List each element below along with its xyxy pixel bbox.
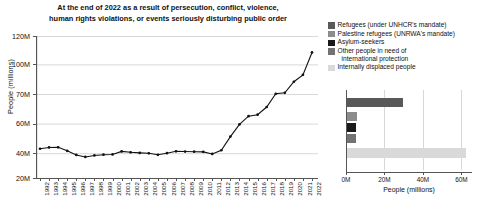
line-chart-x-tick-label: 2015 bbox=[251, 182, 258, 196]
line-chart-data-point bbox=[166, 152, 169, 155]
bar-chart-x-tick-label: 60M bbox=[448, 176, 474, 183]
bar-chart-x-tick-mark bbox=[461, 172, 462, 175]
bar-chart-x-tick-label: 0M bbox=[333, 176, 359, 183]
line-chart-y-tick-label: 40M bbox=[0, 149, 30, 158]
bar-chart-bar bbox=[346, 112, 357, 121]
bar-chart-bar bbox=[346, 98, 403, 107]
line-chart-data-point bbox=[120, 150, 123, 153]
line-chart-x-tick-label: 2005 bbox=[160, 182, 167, 196]
bar-chart-bar bbox=[346, 148, 466, 158]
line-chart-x-tick-label: 2007 bbox=[179, 182, 186, 196]
line-chart-x-tick-label: 2001 bbox=[124, 182, 131, 196]
line-chart-x-tick-label: 2017 bbox=[269, 182, 276, 196]
line-chart-data-point bbox=[256, 113, 259, 116]
line-chart-y-axis-label: People (millions) bbox=[6, 44, 15, 130]
line-chart-x-tick-label: 1994 bbox=[61, 182, 68, 196]
legend-swatch-icon bbox=[328, 48, 335, 55]
bar-chart-x-tick-mark bbox=[384, 172, 385, 175]
line-chart-data-point bbox=[247, 115, 250, 118]
line-chart-x-tick-label: 2011 bbox=[215, 182, 222, 195]
line-chart-data-point bbox=[157, 153, 160, 156]
legend-item[interactable]: Other people in need ofinternational pro… bbox=[328, 47, 480, 63]
bar-chart-y-axis-line bbox=[346, 90, 347, 172]
line-chart-data-point bbox=[93, 154, 96, 157]
legend-item-label: Other people in need ofinternational pro… bbox=[338, 47, 409, 63]
line-chart-x-tick-label: 1993 bbox=[52, 182, 59, 196]
line-chart-data-point bbox=[220, 149, 223, 152]
legend-item[interactable]: Internally displaced people bbox=[328, 63, 480, 71]
line-chart-data-point bbox=[102, 153, 105, 156]
line-chart-data-point bbox=[138, 152, 141, 155]
bar-chart-x-tick-label: 20M bbox=[371, 176, 397, 183]
bar-chart-panel: 0M20M40M60M People (millions) bbox=[328, 88, 480, 217]
line-chart-x-tick-label: 2019 bbox=[287, 182, 294, 196]
line-chart-data-point bbox=[238, 123, 241, 126]
legend-swatch-icon bbox=[328, 40, 335, 47]
legend: Refugees (under UNHCR's mandate)Palestin… bbox=[328, 21, 480, 72]
line-chart-x-tick-label: 2002 bbox=[133, 182, 140, 196]
bar-chart-gridline bbox=[461, 90, 462, 170]
bar-chart-x-axis-label: People (millions) bbox=[346, 186, 472, 193]
line-chart-y-tick-label: 60M bbox=[0, 119, 30, 128]
bar-chart-gridline bbox=[423, 90, 424, 170]
line-chart-data-point bbox=[57, 146, 60, 149]
line-chart-plot-area bbox=[36, 36, 318, 178]
line-chart-data-point bbox=[311, 51, 314, 54]
line-chart-title: At the end of 2022 as a result of persec… bbox=[18, 3, 318, 24]
bar-chart-plot-area bbox=[346, 90, 471, 170]
legend-item[interactable]: Palestine refugees (UNRWA's mandate) bbox=[328, 30, 480, 38]
line-chart-x-tick-label: 2022 bbox=[315, 182, 322, 196]
line-chart-y-tick-label: 20M bbox=[0, 174, 30, 183]
line-chart-data-point bbox=[147, 152, 150, 155]
line-chart-x-tick-label: 1996 bbox=[79, 182, 86, 196]
line-chart-x-tick-label: 2006 bbox=[170, 182, 177, 196]
line-chart-x-tick-label: 2012 bbox=[224, 182, 231, 196]
legend-item-label: Palestine refugees (UNRWA's mandate) bbox=[338, 30, 455, 38]
line-chart-series-line bbox=[40, 52, 312, 156]
line-chart-data-point bbox=[274, 92, 277, 95]
line-chart-x-tick-label: 1999 bbox=[106, 182, 113, 196]
line-chart-data-point bbox=[293, 80, 296, 83]
line-chart-y-tick-label: 120M bbox=[0, 32, 30, 41]
legend-item[interactable]: Refugees (under UNHCR's mandate) bbox=[328, 21, 480, 29]
legend-swatch-icon bbox=[328, 22, 335, 29]
line-chart-data-point bbox=[265, 106, 268, 109]
line-chart-x-tick-label: 2004 bbox=[151, 182, 158, 196]
legend-item[interactable]: Asylum-seekers bbox=[328, 38, 480, 46]
line-chart-title-line2: human rights violations, or events serio… bbox=[49, 14, 287, 23]
line-chart-x-tick-label: 2020 bbox=[296, 182, 303, 196]
line-chart-x-tick-label: 2016 bbox=[260, 182, 267, 196]
bar-chart-x-axis-line bbox=[346, 172, 472, 173]
line-chart-x-axis-ticks: 1992199319941995199619971998199920002001… bbox=[36, 178, 318, 217]
line-chart-x-tick-label: 2010 bbox=[206, 182, 213, 196]
line-chart-data-point bbox=[75, 154, 78, 157]
line-chart-data-point bbox=[175, 150, 178, 153]
line-chart-svg bbox=[36, 36, 318, 178]
line-chart-x-tick-label: 2008 bbox=[188, 182, 195, 196]
line-chart-x-tick-label: 1995 bbox=[70, 182, 77, 196]
line-chart-panel: At the end of 2022 as a result of persec… bbox=[0, 0, 322, 217]
line-chart-x-tick-label: 2021 bbox=[306, 182, 313, 196]
line-chart-x-tick-label: 2003 bbox=[142, 182, 149, 196]
line-chart-data-point bbox=[229, 135, 232, 138]
line-chart-data-point bbox=[48, 146, 51, 149]
line-chart-data-point bbox=[211, 153, 214, 156]
bar-chart-bar bbox=[346, 123, 356, 132]
line-chart-data-point bbox=[84, 156, 87, 159]
bar-chart-x-tick-label: 40M bbox=[410, 176, 436, 183]
line-chart-x-tick-label: 1992 bbox=[43, 182, 50, 196]
legend-item-label: Refugees (under UNHCR's mandate) bbox=[338, 21, 447, 29]
bar-chart-x-tick-mark bbox=[346, 172, 347, 175]
line-chart-data-point bbox=[66, 149, 69, 152]
line-chart-data-point bbox=[111, 153, 114, 156]
legend-swatch-icon bbox=[328, 31, 335, 38]
line-chart-y-tick-label: 70M bbox=[0, 90, 30, 99]
line-chart-data-point bbox=[283, 91, 286, 94]
line-chart-x-tick-label: 2013 bbox=[233, 182, 240, 196]
line-chart-x-tick-label: 2018 bbox=[278, 182, 285, 196]
line-chart-title-line1: At the end of 2022 as a result of persec… bbox=[57, 3, 278, 12]
line-chart-y-tick-label: 100M bbox=[0, 60, 30, 69]
legend-item-label: Asylum-seekers bbox=[338, 38, 385, 46]
line-chart-x-tick-label: 2014 bbox=[242, 182, 249, 196]
legend-item-label: Internally displaced people bbox=[338, 63, 416, 71]
